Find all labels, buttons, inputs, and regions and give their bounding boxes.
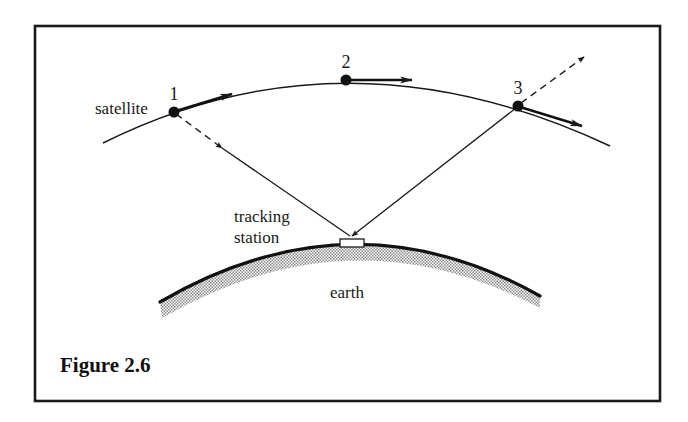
- velocity-arrow-position-1: [176, 94, 232, 111]
- satellite-orbit: [103, 83, 610, 146]
- satellite-label: satellite: [95, 99, 148, 118]
- satellite-tracking-diagram: 1 2 3 satellite tracking station earth F…: [0, 0, 688, 422]
- tracking-station-icon: [340, 239, 364, 247]
- position-label-3: 3: [514, 78, 523, 98]
- satellite-position-1-dot: [169, 107, 180, 118]
- velocity-arrow-position-3: [520, 107, 582, 126]
- signal-line-position-3: [352, 108, 516, 236]
- earth-label: earth: [330, 283, 364, 302]
- figure-caption: Figure 2.6: [60, 353, 151, 377]
- tracking-label: tracking: [234, 207, 290, 226]
- satellite-position-3-dot: [513, 101, 524, 112]
- position-label-1: 1: [170, 84, 179, 104]
- position-label-2: 2: [342, 52, 351, 72]
- station-label: station: [234, 228, 280, 247]
- outgoing-signal-position-3: [521, 57, 584, 103]
- earth-surface: [160, 244, 540, 318]
- satellite-position-2-dot: [341, 75, 352, 86]
